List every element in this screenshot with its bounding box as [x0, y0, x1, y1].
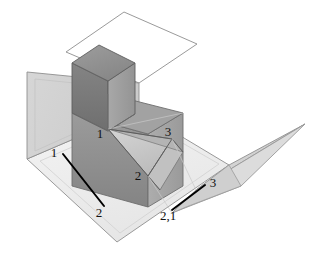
label-vertex-2-solid: 2 [135, 168, 142, 183]
label-proj-right-21: 2,1 [160, 208, 176, 223]
figure-root: 1 3 2 1 2 3 2,1 [0, 0, 321, 262]
label-vertex-1-solid: 1 [97, 126, 104, 141]
label-proj-left-2: 2 [96, 205, 103, 220]
label-vertex-3-solid: 3 [165, 124, 172, 139]
axonometric-figure: 1 3 2 1 2 3 2,1 [0, 0, 321, 262]
label-proj-right-3: 3 [210, 175, 217, 190]
label-proj-left-1: 1 [51, 145, 58, 160]
